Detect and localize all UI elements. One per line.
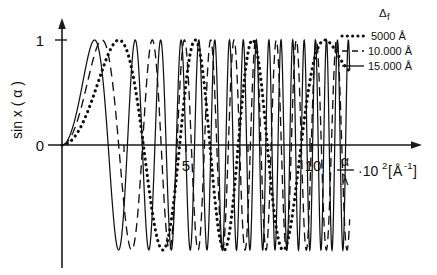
legend-title: Δ f	[379, 7, 390, 22]
y-axis-arrowhead	[58, 18, 66, 29]
x-axis-title-unit-close: ]	[413, 163, 417, 179]
y-axis-title: sin x ( α )	[9, 81, 25, 139]
x-axis-arrowhead	[411, 141, 422, 149]
x-axis-title-unit-exponent: -1	[404, 160, 412, 171]
y-tick-label-1: 1	[36, 32, 44, 49]
x-axis-title-unit: Å	[393, 163, 403, 179]
legend-item-15000[interactable]: 15.000 Å	[342, 60, 413, 72]
x-axis-title: α λ ·10 2 [ Å -1 ]	[337, 153, 417, 188]
legend-item-10000[interactable]: 10.000 Å	[342, 45, 413, 57]
legend-label-10000: 10.000 Å	[368, 45, 413, 57]
legend-item-5000[interactable]: 5000 Å	[342, 30, 407, 42]
x-axis-title-unit-open: [	[388, 163, 392, 179]
legend: Δ f 5000 Å 10.000 Å 15.000 Å	[342, 7, 413, 72]
y-tick-label-0: 0	[36, 137, 44, 154]
x-axis-title-exponent: 2	[382, 160, 387, 171]
legend-label-15000: 15.000 Å	[368, 60, 413, 72]
plot-canvas: 1 0 5 10 sin x ( α ) α λ ·10 2 [ Å -1 ] …	[0, 0, 437, 275]
legend-title-symbol: Δ	[379, 7, 387, 19]
ctf-figure: 1 0 5 10 sin x ( α ) α λ ·10 2 [ Å -1 ] …	[0, 0, 437, 275]
legend-title-subscript: f	[387, 11, 390, 22]
legend-label-5000: 5000 Å	[371, 30, 407, 42]
x-axis-title-multiplier: ·10	[358, 163, 378, 179]
